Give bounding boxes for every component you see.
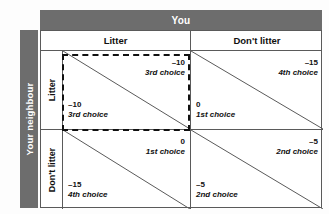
row-header-litter: Litter <box>41 51 62 130</box>
cell-litter-litter[interactable]: –10 3rd choice –10 3rd choice <box>63 51 191 130</box>
payoff-value: 0 <box>196 100 235 110</box>
payoff-rank: 4th choice <box>68 190 108 200</box>
column-header-dont-litter-label: Don't litter <box>233 35 280 46</box>
payoff-rank: 3rd choice <box>68 110 108 120</box>
row-header-column: Litter Don't litter <box>41 51 63 209</box>
payoff-you-dontlitter-dontlitter: –5 2nd choice <box>276 137 318 157</box>
column-header-row: Litter Don't litter <box>41 31 321 51</box>
column-header-litter-label: Litter <box>104 35 128 46</box>
payoff-rank: 1st choice <box>146 147 185 157</box>
row-axis-label: Your neighbour <box>20 30 38 208</box>
row-header-litter-label: Litter <box>47 79 57 102</box>
payoff-neighbour-litter-dontlitter: 0 1st choice <box>196 100 235 120</box>
payoff-value: –10 <box>68 100 108 110</box>
payoff-rank: 2nd choice <box>276 147 318 157</box>
cell-litter-dontlitter[interactable]: –15 4th choice 0 1st choice <box>191 51 323 130</box>
payoff-neighbour-dontlitter-dontlitter: –5 2nd choice <box>196 180 238 200</box>
payoff-neighbour-dontlitter-litter: –15 4th choice <box>68 180 108 200</box>
payoff-value: –10 <box>145 58 185 68</box>
row-axis-label-text: Your neighbour <box>24 83 35 156</box>
column-axis-label: You <box>40 10 322 30</box>
payoff-you-dontlitter-litter: 0 1st choice <box>146 137 185 157</box>
payoff-rank: 1st choice <box>196 110 235 120</box>
payoff-value: –15 <box>278 58 318 68</box>
cell-dontlitter-litter[interactable]: 0 1st choice –15 4th choice <box>63 130 191 209</box>
payoff-cells: –10 3rd choice –10 3rd choice –15 4th ch… <box>63 51 323 209</box>
payoff-rank: 4th choice <box>278 68 318 78</box>
payoff-value: –5 <box>196 180 238 190</box>
payoff-value: –15 <box>68 180 108 190</box>
column-axis-label-text: You <box>171 15 190 26</box>
payoff-value: –5 <box>276 137 318 147</box>
column-header-dont-litter: Don't litter <box>191 31 323 50</box>
row-header-dont-litter: Don't litter <box>41 130 62 209</box>
payoff-matrix-figure: You Your neighbour Litter Don't litter L… <box>0 0 329 214</box>
payoff-rank: 2nd choice <box>196 190 238 200</box>
column-header-litter: Litter <box>41 31 191 50</box>
payoff-you-litter-litter: –10 3rd choice <box>145 58 185 78</box>
payoff-rank: 3rd choice <box>145 68 185 78</box>
row-header-dont-litter-label: Don't litter <box>47 147 57 192</box>
matrix-grid: Litter Don't litter Litter Don't litter <box>40 30 322 208</box>
payoff-you-litter-dontlitter: –15 4th choice <box>278 58 318 78</box>
payoff-value: 0 <box>146 137 185 147</box>
payoff-neighbour-litter-litter: –10 3rd choice <box>68 100 108 120</box>
cell-dontlitter-dontlitter[interactable]: –5 2nd choice –5 2nd choice <box>191 130 323 209</box>
